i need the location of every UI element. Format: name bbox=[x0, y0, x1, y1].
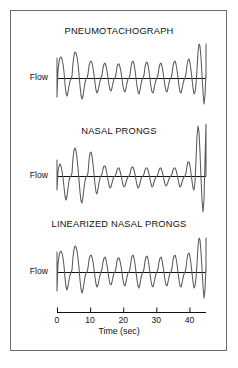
signal-polyline bbox=[57, 238, 206, 298]
time-axis-tick-label: 40 bbox=[179, 315, 199, 325]
time-axis-tick-label: 20 bbox=[113, 315, 133, 325]
figure-container: PNEUMOTACHOGRAPH Flow NASAL PRONGS Flow … bbox=[0, 0, 238, 368]
time-axis-title: Time (sec) bbox=[0, 326, 238, 336]
time-axis-tick-label: 0 bbox=[47, 315, 67, 325]
flow-axis-label-panel-2: Flow bbox=[12, 170, 48, 180]
flow-axis-label-panel-3: Flow bbox=[12, 266, 48, 276]
flow-axis-label-panel-1: Flow bbox=[12, 72, 48, 82]
time-axis-tick-label: 10 bbox=[80, 315, 100, 325]
time-axis-tick-label: 30 bbox=[146, 315, 166, 325]
